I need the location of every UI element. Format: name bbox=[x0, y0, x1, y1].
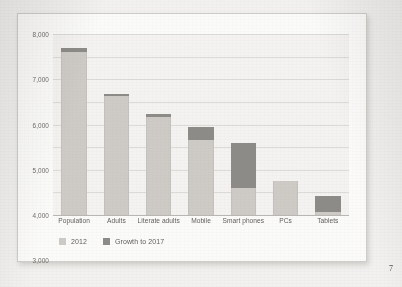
legend-swatch-icon bbox=[59, 238, 66, 245]
bar-segment-growth-to-2017[interactable] bbox=[61, 48, 86, 53]
y-axis-tick-label: 3,000 bbox=[33, 257, 50, 264]
x-axis-tick-label: Literate adults bbox=[138, 217, 180, 224]
bar-segment-growth-to-2017[interactable] bbox=[104, 94, 129, 96]
legend-swatch-icon bbox=[103, 238, 110, 245]
bar-segment-2012[interactable] bbox=[61, 52, 86, 215]
scanned-page-background: 01,0002,0003,0004,0005,0006,0007,0008,00… bbox=[0, 0, 402, 287]
legend-label: Growth to 2017 bbox=[115, 238, 164, 245]
x-axis-labels: PopulationAdultsLiterate adultsMobileSma… bbox=[53, 217, 349, 231]
bar-segment-growth-to-2017[interactable] bbox=[146, 114, 171, 116]
bar-segment-2012[interactable] bbox=[273, 181, 298, 215]
x-axis-tick-label: Adults bbox=[107, 217, 126, 224]
bar-group[interactable] bbox=[146, 114, 171, 215]
bar-segment-2012[interactable] bbox=[146, 117, 171, 215]
page-number: 7 bbox=[389, 264, 393, 273]
bar-segment-growth-to-2017[interactable] bbox=[315, 196, 340, 212]
bar-segment-2012[interactable] bbox=[104, 96, 129, 215]
bar-segment-growth-to-2017[interactable] bbox=[231, 143, 256, 188]
figure-card: 01,0002,0003,0004,0005,0006,0007,0008,00… bbox=[17, 13, 367, 262]
bar-chart: 01,0002,0003,0004,0005,0006,0007,0008,00… bbox=[23, 19, 361, 257]
bar-group[interactable] bbox=[231, 143, 256, 215]
y-axis-tick-label: 8,000 bbox=[33, 31, 50, 38]
chart-legend: 2012Growth to 2017 bbox=[59, 238, 164, 245]
axis-baseline: 0 bbox=[53, 215, 349, 216]
y-axis-tick-label: 6,000 bbox=[33, 121, 50, 128]
bar-group[interactable] bbox=[273, 181, 298, 215]
bar-segment-2012[interactable] bbox=[188, 140, 213, 215]
bar-segment-2012[interactable] bbox=[231, 188, 256, 215]
legend-item[interactable]: Growth to 2017 bbox=[103, 238, 164, 245]
legend-label: 2012 bbox=[71, 238, 87, 245]
legend-item[interactable]: 2012 bbox=[59, 238, 87, 245]
plot-area: 01,0002,0003,0004,0005,0006,0007,0008,00… bbox=[53, 34, 349, 215]
y-axis-tick-label: 5,000 bbox=[33, 166, 50, 173]
y-axis-tick-label: 7,000 bbox=[33, 76, 50, 83]
x-axis-tick-label: Tablets bbox=[317, 217, 338, 224]
bar-group[interactable] bbox=[61, 48, 86, 215]
bar-segment-growth-to-2017[interactable] bbox=[188, 127, 213, 141]
x-axis-tick-label: Population bbox=[58, 217, 90, 224]
x-axis-tick-label: Smart phones bbox=[222, 217, 264, 224]
y-axis-tick-label: 4,000 bbox=[33, 212, 50, 219]
x-axis-tick-label: Mobile bbox=[191, 217, 211, 224]
x-axis-tick-label: PCs bbox=[279, 217, 292, 224]
bars bbox=[53, 34, 349, 215]
bar-segment-2012[interactable] bbox=[315, 212, 340, 215]
bar-group[interactable] bbox=[315, 196, 340, 215]
bar-group[interactable] bbox=[104, 94, 129, 215]
bar-group[interactable] bbox=[188, 127, 213, 215]
